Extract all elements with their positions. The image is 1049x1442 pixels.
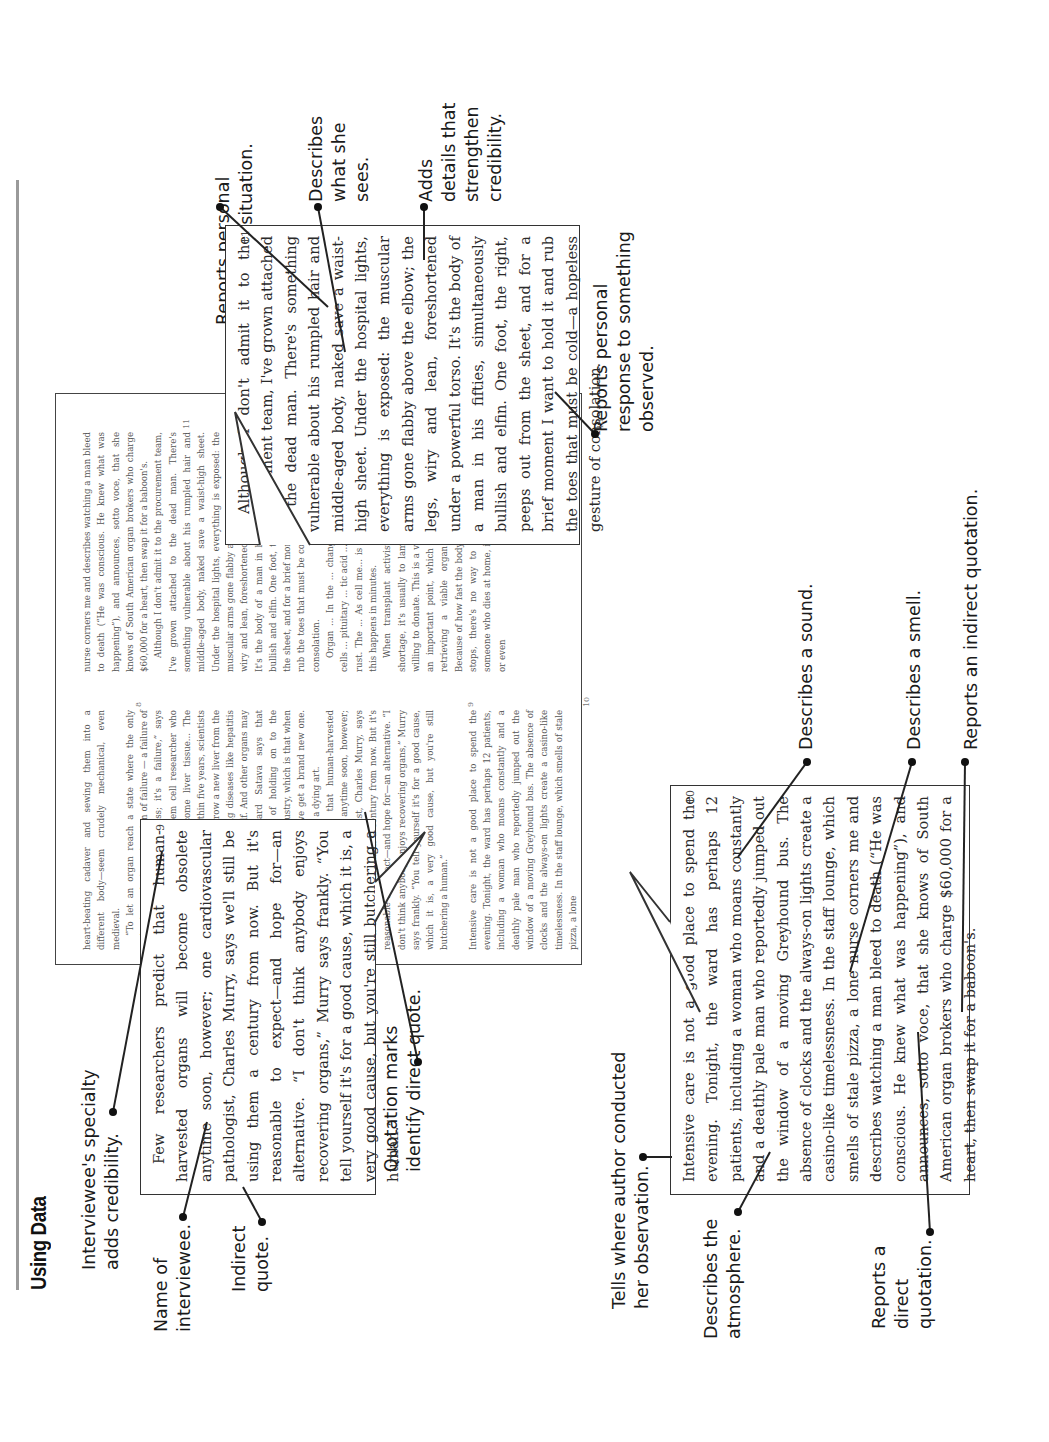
- callout-intensive-care-text: Intensive care is not a good place to sp…: [677, 796, 981, 1182]
- annotation-describes-what-she-sees: Describes what she sees.: [305, 82, 374, 202]
- annotation-tells-where: Tells where author conducted her observa…: [608, 1049, 654, 1309]
- article-col1-p1: heart-beating cadaver and sewing them in…: [80, 710, 123, 950]
- callout-murry-text: Few researchers predict that human-harve…: [147, 830, 404, 1182]
- callout-number: 9: [149, 824, 172, 831]
- callout-number: 10: [679, 790, 702, 804]
- annotation-describes-smell: Describes a smell.: [903, 530, 926, 750]
- rotated-document-page: Using Data Interviewee's specialty adds …: [0, 0, 1049, 1442]
- callout-dead-man: 11 Although I don't admit it to the proc…: [225, 225, 580, 545]
- header-rule: [16, 180, 19, 1290]
- callout-dead-man-text: Although I don't admit it to the procure…: [232, 236, 607, 532]
- line-number-10: 10: [582, 697, 591, 707]
- annotation-interviewee-specialty: Interviewee's specialty adds credibility…: [78, 1030, 124, 1270]
- leader-dot-icon: [420, 203, 428, 211]
- annotation-indirect-quote: Indirect quote.: [228, 1192, 274, 1292]
- line-number-8: 8: [134, 702, 143, 707]
- article-col1-p4: Intensive care is not a good place to sp…: [466, 710, 580, 950]
- leader-dot-icon: [908, 758, 916, 766]
- line-number-11: 11: [182, 419, 191, 429]
- line-number-9: 9: [466, 702, 475, 707]
- leader-dot-icon: [314, 203, 322, 211]
- leader-dot-icon: [961, 758, 969, 766]
- annotation-describes-atmosphere: Describes the atmosphere.: [700, 1199, 746, 1339]
- leader-dot-icon: [803, 758, 811, 766]
- callout-intensive-care: 10 Intensive care is not a good place to…: [670, 785, 970, 1195]
- page-heading: Using Data: [26, 1197, 52, 1290]
- callout-murry-quote: 9 Few researchers predict that human-har…: [140, 819, 376, 1195]
- callout-number: 11: [234, 230, 257, 244]
- article-col2-p1: nurse corners me and describes watching …: [80, 432, 151, 672]
- annotation-reports-indirect-quotation: Reports an indirect quotation.: [960, 410, 983, 750]
- annotation-name-of-interviewee: Name of interviewee.: [150, 1212, 196, 1332]
- annotation-describes-sound: Describes a sound.: [795, 530, 818, 750]
- annotation-reports-direct-quotation: Reports a direct quotation.: [868, 1229, 937, 1329]
- annotation-adds-details: Adds details that strengthen credibility…: [415, 72, 507, 202]
